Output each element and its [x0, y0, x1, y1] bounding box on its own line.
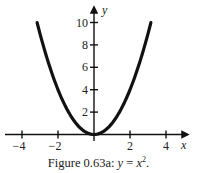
- x-tick-label: 4: [163, 139, 169, 153]
- x-tick-label: −4: [13, 139, 26, 153]
- caption-equals: =: [123, 156, 136, 170]
- caption-prefix: Figure 0.63a:: [48, 156, 118, 170]
- caption-suffix: .: [146, 156, 149, 170]
- y-tick-label: 8: [82, 38, 88, 52]
- x-axis-label: x: [180, 138, 187, 152]
- y-tick-label: 4: [82, 83, 88, 97]
- y-tick-label: 6: [82, 60, 88, 74]
- figure-caption: Figure 0.63a: y = x2.: [0, 155, 197, 171]
- axes: [5, 7, 188, 141]
- x-tick-label: 2: [127, 139, 133, 153]
- y-tick-label: 10: [76, 16, 88, 30]
- x-tick-label: −2: [49, 139, 62, 153]
- y-tick-label: 2: [82, 105, 88, 119]
- parabola-chart: −4−224 246810 x y: [0, 0, 197, 173]
- y-axis-label: y: [101, 3, 108, 17]
